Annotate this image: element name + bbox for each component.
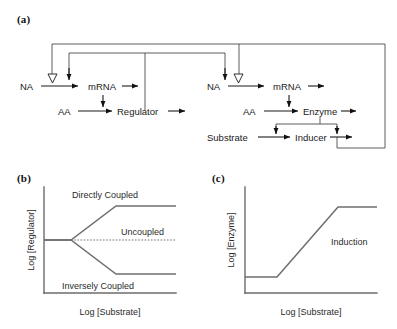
node-mrna-left: mRNA [88, 81, 117, 92]
chart-panel-c: Induction Log [Enzyme] Log [Substrate] [198, 165, 397, 329]
node-enzyme: Enzyme [303, 106, 337, 117]
network-diagram-panel-a: NA mRNA AA Regulator NA [0, 0, 397, 165]
annotation-induction: Induction [331, 237, 368, 247]
enzyme-module: NA mRNA AA Enzyme Substrate [207, 68, 356, 143]
regulator-module: NA mRNA AA Regulator [20, 68, 185, 117]
annotation-directly-coupled: Directly Coupled [72, 190, 138, 200]
enzyme-bracket-right [320, 124, 337, 130]
inner-feedback-rail-left [69, 53, 225, 76]
chart-panel-b: Directly Coupled Uncoupled Inversely Cou… [0, 165, 198, 329]
panel-b-y-axis-label: Log [Regulator] [26, 209, 36, 271]
node-substrate: Substrate [207, 132, 248, 143]
figure-root: (a) (b) (c) NA [0, 0, 397, 329]
series-inversely-coupled [44, 240, 176, 274]
enzyme-bracket-left [276, 117, 320, 130]
panel-c-y-axis-label: Log [Enzyme] [226, 212, 236, 267]
node-na-right: NA [207, 81, 221, 92]
open-triangle-icon-left [48, 74, 57, 83]
annotation-uncoupled: Uncoupled [121, 227, 164, 237]
panel-b-x-axis-label: Log [Substrate] [79, 307, 140, 317]
node-regulator: Regulator [117, 106, 158, 117]
panel-c-x-axis-label: Log [Substrate] [280, 307, 341, 317]
node-aa-left: AA [58, 106, 71, 117]
node-inducer: Inducer [295, 132, 327, 143]
node-aa-right: AA [243, 106, 256, 117]
node-na-left: NA [20, 81, 34, 92]
annotation-inversely-coupled: Inversely Coupled [62, 281, 134, 291]
open-triangle-icon-right [234, 74, 243, 83]
node-mrna-right: mRNA [273, 81, 302, 92]
